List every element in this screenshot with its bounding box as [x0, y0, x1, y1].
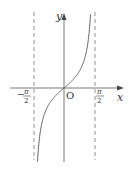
y-axis-arrow-icon — [62, 13, 67, 20]
y-axis-label: y — [55, 10, 63, 23]
pos-pi-label: π — [96, 88, 102, 96]
pos-den-label: 2 — [97, 97, 101, 105]
x-axis-label: x — [117, 91, 124, 104]
neg-den-label: 2 — [24, 97, 28, 105]
x-axis-arrow-icon — [117, 86, 124, 91]
tan-graph: y x O − π 2 π 2 — [0, 0, 132, 171]
origin-label: O — [66, 90, 74, 101]
neg-pi-label: π — [23, 88, 29, 96]
